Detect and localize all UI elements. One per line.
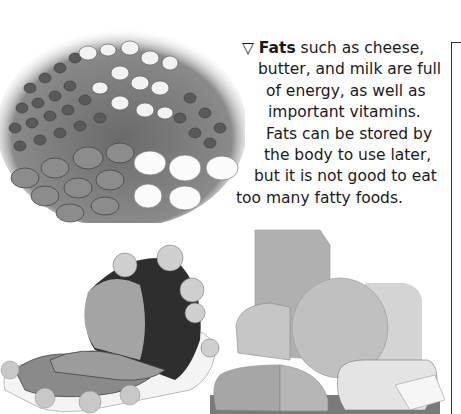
caption-line-4: important vitamins. (232, 102, 442, 123)
page-frame-border (451, 42, 461, 414)
caption-line-5: Fats can be stored by (232, 124, 442, 145)
ham-photo (0, 230, 225, 414)
beans-photo (0, 18, 245, 223)
cheese-photo (200, 225, 445, 414)
caption-line-3: of energy, as well as (232, 81, 442, 102)
caption-line-2: butter, and milk are full (232, 59, 442, 80)
caption-line-6: the body to use later, (232, 145, 442, 166)
caption-line-7: but it is not good to eat (232, 166, 442, 187)
caption-bold-term: Fats (259, 39, 296, 57)
caption-line-8: too many fatty foods. (236, 188, 442, 209)
fats-caption: ▽ Fats such as cheese, butter, and milk … (232, 38, 442, 209)
triangle-marker-icon: ▽ (242, 39, 254, 57)
caption-line-1: ▽ Fats such as cheese, (232, 38, 442, 59)
